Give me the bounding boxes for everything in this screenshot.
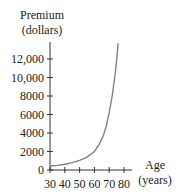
x-axis-title-line2: (years) bbox=[138, 173, 171, 187]
y-tick-label: 8000 bbox=[20, 89, 44, 103]
y-tick-label: 0 bbox=[38, 163, 44, 177]
x-tick-label: 50 bbox=[74, 177, 86, 191]
y-axis-title-line2: (dollars) bbox=[22, 23, 63, 37]
y-tick-labels: 0 2000 4000 6000 8000 10,000 12,000 bbox=[11, 52, 44, 177]
y-tick-label: 6000 bbox=[20, 108, 44, 122]
x-tick-label: 70 bbox=[103, 177, 115, 191]
y-tick-label: 12,000 bbox=[11, 52, 44, 66]
x-tick-label: 80 bbox=[118, 177, 130, 191]
y-tick-label: 4000 bbox=[20, 126, 44, 140]
x-tick-label: 40 bbox=[59, 177, 71, 191]
x-tick-label: 30 bbox=[44, 177, 56, 191]
x-tick-label: 60 bbox=[88, 177, 100, 191]
y-axis-title-line1: Premium bbox=[20, 8, 65, 22]
x-tick-labels: 30 40 50 60 70 80 bbox=[44, 177, 130, 191]
x-axis-title-line1: Age bbox=[145, 158, 165, 172]
premium-curve bbox=[50, 43, 118, 166]
y-tick-label: 10,000 bbox=[11, 71, 44, 85]
chart: Premium (dollars) 0 2000 4000 6000 8000 … bbox=[0, 0, 181, 196]
y-tick-label: 2000 bbox=[20, 145, 44, 159]
